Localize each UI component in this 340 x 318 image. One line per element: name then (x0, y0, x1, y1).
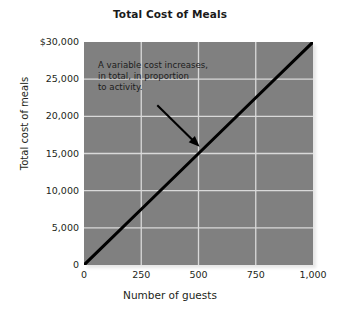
y-axis-tick-label: $30,000 (0, 37, 79, 47)
y-axis-tick-labels: $30,00025,00020,00015,00010,0005,0000 (0, 42, 79, 265)
x-axis-tick-labels: 02505007501,000 (84, 269, 313, 283)
chart-figure: Total Cost of Meals $30,00025,00020,0001… (0, 0, 340, 318)
x-axis-tick-label: 250 (111, 269, 171, 280)
y-axis-tick-label: 5,000 (0, 223, 79, 233)
annotation-text: A variable cost increases, in total, in … (98, 60, 238, 94)
y-axis-title: Total cost of meals (19, 59, 30, 189)
x-axis-tick-label: 1,000 (283, 269, 340, 280)
y-axis-tick-label: 20,000 (0, 111, 79, 121)
x-axis-tick-label: 500 (169, 269, 229, 280)
x-axis-title: Number of guests (0, 289, 340, 301)
x-axis-tick-label: 750 (226, 269, 286, 280)
y-axis-tick-label: 10,000 (0, 186, 79, 196)
annotation-arrow (157, 105, 199, 147)
y-axis-tick-label: 15,000 (0, 149, 79, 159)
x-axis-tick-label: 0 (54, 269, 114, 280)
chart-title: Total Cost of Meals (0, 8, 340, 20)
y-axis-tick-label: 25,000 (0, 74, 79, 84)
plot-area: A variable cost increases, in total, in … (84, 42, 313, 265)
